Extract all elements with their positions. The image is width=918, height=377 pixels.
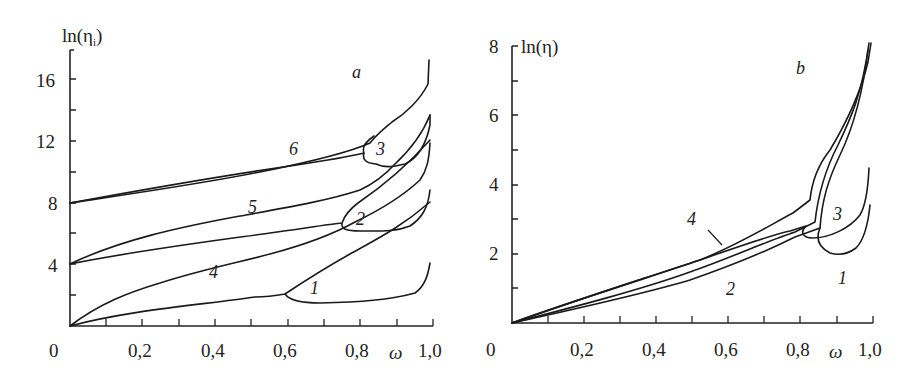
panel-b: 0 0,2 0,4 0,6 0,8 1,0 ω 2 4 6 8 ln(η) b … bbox=[486, 36, 882, 362]
x-tick-label: 0,8 bbox=[786, 339, 810, 360]
y-tick-label: 12 bbox=[36, 131, 55, 152]
x-tick-label: 1,0 bbox=[858, 339, 882, 360]
curve-3 bbox=[512, 168, 869, 323]
panel-label-b: b bbox=[796, 58, 805, 78]
y-axis-label-b: ln(η) bbox=[521, 36, 558, 58]
curve-label-3: 3 bbox=[375, 139, 385, 159]
panel-a: 0 0,2 0,4 0,6 0,8 1,0 ω 4 8 12 16 ln(ηi)… bbox=[36, 25, 442, 363]
leader-line-4 bbox=[708, 230, 722, 245]
x-tick-zero-a: 0 bbox=[49, 340, 59, 361]
x-tick-label: 0,6 bbox=[273, 340, 297, 361]
y-tick-label: 16 bbox=[36, 70, 55, 91]
x-tick-label: 0,4 bbox=[642, 339, 666, 360]
curve-label-2: 2 bbox=[356, 209, 365, 229]
y-ticks-b bbox=[512, 46, 518, 288]
curve-label-1: 1 bbox=[838, 268, 847, 288]
x-tick-label: 0,6 bbox=[714, 339, 738, 360]
curve-label-3: 3 bbox=[832, 204, 842, 224]
curve-label-2: 2 bbox=[726, 279, 735, 299]
x-tick-label: 1,0 bbox=[418, 340, 442, 361]
figure: 0 0,2 0,4 0,6 0,8 1,0 ω 4 8 12 16 ln(ηi)… bbox=[0, 0, 918, 377]
y-tick-label: 4 bbox=[48, 255, 58, 276]
y-ticks-a bbox=[70, 50, 76, 295]
curve-label-5: 5 bbox=[248, 197, 257, 217]
curve-label-6: 6 bbox=[289, 139, 298, 159]
curve-1-upper bbox=[820, 50, 868, 228]
x-ticks-b bbox=[548, 316, 873, 323]
curve-4 bbox=[512, 43, 871, 323]
x-tick-zero-b: 0 bbox=[486, 339, 496, 360]
curve-2 bbox=[512, 43, 869, 323]
x-tick-label: 0,2 bbox=[128, 340, 152, 361]
curve-label-1: 1 bbox=[310, 278, 319, 298]
x-tick-label: 0,2 bbox=[570, 339, 594, 360]
curve-4 bbox=[70, 143, 430, 326]
x-ticks-a bbox=[106, 319, 433, 326]
y-tick-label: 2 bbox=[489, 243, 499, 264]
y-tick-label: 6 bbox=[489, 105, 499, 126]
x-axis-label-a: ω bbox=[389, 342, 402, 363]
y-tick-label: 8 bbox=[489, 36, 499, 57]
curve-label-4: 4 bbox=[687, 209, 696, 229]
y-tick-label: 8 bbox=[48, 193, 58, 214]
curve-label-4: 4 bbox=[209, 262, 218, 282]
curve-1 bbox=[70, 202, 430, 326]
y-tick-label: 4 bbox=[489, 174, 499, 195]
y-axis-label-a: ln(ηi) bbox=[62, 25, 102, 48]
panel-label-a: a bbox=[352, 62, 361, 82]
x-tick-label: 0,4 bbox=[201, 340, 225, 361]
x-tick-label: 0,8 bbox=[345, 340, 369, 361]
x-axis-label-b: ω bbox=[829, 341, 842, 362]
